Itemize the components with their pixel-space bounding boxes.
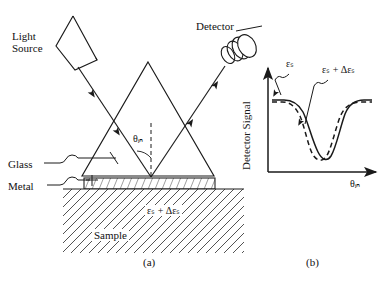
- incidence-angle-label: θᵢₙ: [133, 133, 143, 144]
- metal-layer: [84, 178, 215, 189]
- chart-curve-solid: [272, 100, 372, 159]
- panel-a-caption: (a): [143, 256, 155, 268]
- light-source-label: Light Source: [12, 30, 43, 54]
- prism-glass: [82, 62, 214, 176]
- reflected-beam: [151, 66, 225, 177]
- light-source-icon: [56, 16, 97, 70]
- panel-a-diagram: [44, 16, 262, 253]
- sample-label: Sample: [92, 229, 129, 241]
- incident-beam: [78, 67, 151, 177]
- curve-dashed-label: εₛ + Δεₛ: [322, 64, 355, 75]
- curve-dashed-leader: [296, 80, 328, 127]
- detector-label: Detector: [196, 20, 234, 32]
- light-source-label-line2: Source: [12, 42, 43, 54]
- panel-b-chart: [268, 68, 376, 172]
- chart-x-axis-label: θᵢₙ: [350, 178, 360, 189]
- metal-label: Metal: [8, 180, 34, 192]
- incidence-angle-arc: [137, 151, 151, 158]
- light-source-label-line1: Light: [12, 30, 36, 42]
- curve-solid-leader: [271, 74, 289, 98]
- glass-leader-line: [44, 152, 118, 164]
- sample-layer: [63, 189, 244, 253]
- chart-curve-dashed: [272, 102, 372, 160]
- spr-setup-figure: [0, 0, 392, 288]
- sample-permittivity-label: εₛ + Δεₛ: [145, 205, 182, 216]
- glass-label: Glass: [8, 158, 32, 170]
- panel-b-caption: (b): [306, 256, 319, 268]
- chart-y-axis-label: Detector Signal: [240, 101, 252, 170]
- curve-solid-label: εₛ: [286, 58, 294, 69]
